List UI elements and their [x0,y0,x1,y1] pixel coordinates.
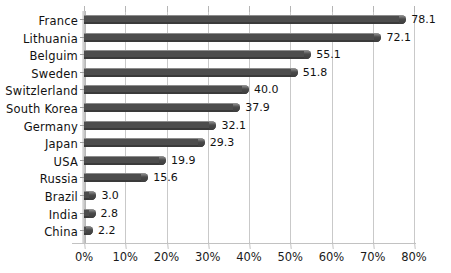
bar-france[interactable] [84,15,406,24]
bar-usa[interactable] [84,156,166,165]
bar-sweden[interactable] [84,68,298,77]
value-label-switzlerland: 40.0 [254,83,279,96]
value-label-china: 2.2 [98,224,116,237]
top-tick-mark [290,6,291,12]
bar-row: Germany32.1 [0,121,451,138]
category-label-india: India [0,208,78,222]
bar-switzlerland[interactable] [84,85,249,94]
category-label-brazil: Brazil [0,190,78,204]
bar-row: China2.2 [0,226,451,243]
bar-row: USA19.9 [0,156,451,173]
value-label-sweden: 51.8 [303,66,328,79]
x-tick-label-80: 80% [401,250,427,264]
x-tick-label-0: 0% [75,250,93,264]
category-label-usa: USA [0,155,78,169]
bar-germany[interactable] [84,121,216,130]
category-label-france: France [0,14,78,28]
bar-end-cap [242,85,249,94]
x-tick-label-60: 60% [319,250,345,264]
bar-south-korea[interactable] [84,103,240,112]
x-tick-label-50: 50% [277,250,303,264]
top-tick-mark [414,6,415,12]
category-label-germany: Germany [0,120,78,134]
top-tick-mark [167,6,168,12]
category-label-south-korea: South Korea [0,102,78,116]
bar-end-cap [89,191,96,200]
bar-end-cap [89,209,96,218]
bar-row: India2.8 [0,209,451,226]
category-label-russia: Russia [0,172,78,186]
value-label-japan: 29.3 [210,136,235,149]
bar-russia[interactable] [84,173,148,182]
bar-end-cap [159,156,166,165]
category-label-belguim: Belguim [0,49,78,63]
x-tick-label-70: 70% [360,250,386,264]
bar-row: Lithuania72.1 [0,33,451,50]
value-label-india: 2.8 [101,207,119,220]
x-tick-label-40: 40% [236,250,262,264]
value-label-germany: 32.1 [221,119,246,132]
value-label-russia: 15.6 [153,171,178,184]
x-tick-label-20: 20% [154,250,180,264]
bar-row: Switzlerland40.0 [0,85,451,102]
category-label-china: China [0,225,78,239]
bar-end-cap [374,33,381,42]
value-label-france: 78.1 [411,13,436,26]
category-label-switzlerland: Switzlerland [0,84,78,98]
bar-end-cap [209,121,216,130]
bar-row: Japan29.3 [0,138,451,155]
bar-row: Russia15.6 [0,173,451,190]
bar-lithuania[interactable] [84,33,381,42]
value-label-brazil: 3.0 [101,189,119,202]
bar-end-cap [291,68,298,77]
top-tick-mark [332,6,333,12]
top-tick-mark [373,6,374,12]
bar-row: Sweden51.8 [0,68,451,85]
bar-row: Belguim55.1 [0,50,451,67]
x-tick-label-10: 10% [112,250,138,264]
bar-belguim[interactable] [84,50,311,59]
top-tick-mark [125,6,126,12]
bar-end-cap [233,103,240,112]
bar-end-cap [86,226,93,235]
value-label-lithuania: 72.1 [386,31,411,44]
category-label-sweden: Sweden [0,67,78,81]
category-label-japan: Japan [0,137,78,151]
bar-row: France78.1 [0,15,451,32]
bar-end-cap [141,173,148,182]
value-label-south-korea: 37.9 [245,101,270,114]
value-label-belguim: 55.1 [316,48,341,61]
bar-row: South Korea37.9 [0,103,451,120]
top-tick-mark [249,6,250,12]
value-label-usa: 19.9 [171,154,196,167]
bar-end-cap [304,50,311,59]
bar-end-cap [198,138,205,147]
bar-end-cap [399,15,406,24]
bar-japan[interactable] [84,138,205,147]
top-tick-mark [208,6,209,12]
x-tick-label-30: 30% [195,250,221,264]
bar-row: Brazil3.0 [0,191,451,208]
bar-chart: France78.1Lithuania72.1Belguim55.1Sweden… [0,0,451,273]
category-label-lithuania: Lithuania [0,32,78,46]
